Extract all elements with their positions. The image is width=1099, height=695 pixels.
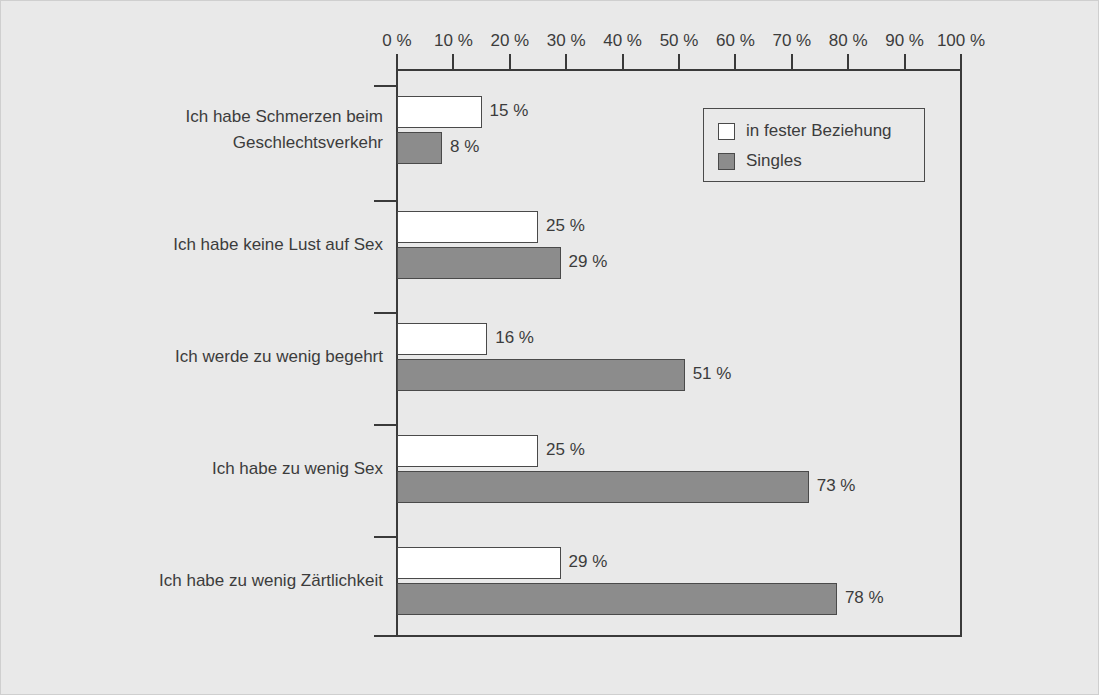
category-separator-4	[374, 536, 397, 538]
legend-label-in-fester-beziehung: in fester Beziehung	[746, 121, 892, 141]
bar-value-label-in-fester-beziehung-4: 29 %	[569, 552, 608, 572]
x-tick-label-80: 80 %	[829, 31, 868, 51]
category-label-3: Ich habe zu wenig Sex	[61, 456, 383, 482]
bar-value-label-in-fester-beziehung-2: 16 %	[495, 328, 534, 348]
x-tick-label-70: 70 %	[772, 31, 811, 51]
bar-value-label-in-fester-beziehung-3: 25 %	[546, 440, 585, 460]
bar-in-fester-beziehung-0	[397, 96, 482, 128]
category-label-line: Ich habe Schmerzen beim	[61, 104, 383, 130]
category-label-1: Ich habe keine Lust auf Sex	[61, 232, 383, 258]
bar-value-label-singles-2: 51 %	[693, 364, 732, 384]
bar-value-label-in-fester-beziehung-1: 25 %	[546, 216, 585, 236]
x-tick-label-40: 40 %	[603, 31, 642, 51]
legend-swatch-white	[718, 123, 735, 140]
category-label-line: Geschlechtsverkehr	[61, 130, 383, 156]
chart-legend: in fester Beziehung Singles	[703, 108, 925, 182]
x-tick-100	[960, 54, 962, 70]
bar-in-fester-beziehung-4	[397, 547, 561, 579]
x-tick-label-10: 10 %	[434, 31, 473, 51]
category-label-4: Ich habe zu wenig Zärtlichkeit	[61, 568, 383, 594]
bar-value-label-singles-1: 29 %	[569, 252, 608, 272]
x-tick-60	[734, 54, 736, 70]
bar-in-fester-beziehung-3	[397, 435, 538, 467]
x-tick-label-0: 0 %	[382, 31, 411, 51]
x-tick-30	[565, 54, 567, 70]
category-label-line: Ich werde zu wenig begehrt	[61, 344, 383, 370]
category-separator-0	[374, 85, 397, 87]
x-tick-label-50: 50 %	[660, 31, 699, 51]
bar-value-label-singles-0: 8 %	[450, 137, 479, 157]
x-tick-0	[396, 54, 398, 70]
legend-label-singles: Singles	[746, 151, 802, 171]
x-tick-40	[622, 54, 624, 70]
x-tick-10	[452, 54, 454, 70]
x-tick-90	[904, 54, 906, 70]
bar-singles-1	[397, 247, 561, 279]
x-tick-label-20: 20 %	[490, 31, 529, 51]
bar-value-label-singles-3: 73 %	[817, 476, 856, 496]
x-tick-label-30: 30 %	[547, 31, 586, 51]
x-tick-label-90: 90 %	[885, 31, 924, 51]
bar-singles-3	[397, 471, 809, 503]
x-tick-20	[509, 54, 511, 70]
x-tick-label-60: 60 %	[716, 31, 755, 51]
x-tick-label-100: 100 %	[937, 31, 985, 51]
category-label-line: Ich habe keine Lust auf Sex	[61, 232, 383, 258]
category-label-line: Ich habe zu wenig Zärtlichkeit	[61, 568, 383, 594]
category-label-2: Ich werde zu wenig begehrt	[61, 344, 383, 370]
bar-in-fester-beziehung-1	[397, 211, 538, 243]
bar-value-label-in-fester-beziehung-0: 15 %	[490, 101, 529, 121]
legend-item-singles: Singles	[718, 150, 802, 172]
category-separator-3	[374, 424, 397, 426]
bar-singles-0	[397, 132, 442, 164]
bar-in-fester-beziehung-2	[397, 323, 487, 355]
bar-value-label-singles-4: 78 %	[845, 588, 884, 608]
bar-singles-4	[397, 583, 837, 615]
category-separator-2	[374, 312, 397, 314]
x-tick-50	[678, 54, 680, 70]
x-tick-70	[791, 54, 793, 70]
plot-right-border	[960, 69, 962, 637]
category-label-0: Ich habe Schmerzen beimGeschlechtsverkeh…	[61, 104, 383, 156]
bar-singles-2	[397, 359, 685, 391]
plot-bottom-border	[374, 635, 962, 637]
category-label-line: Ich habe zu wenig Sex	[61, 456, 383, 482]
chart-figure: 0 %10 %20 %30 %40 %50 %60 %70 %80 %90 %1…	[0, 0, 1099, 695]
legend-swatch-gray	[718, 153, 735, 170]
x-tick-80	[847, 54, 849, 70]
category-separator-1	[374, 200, 397, 202]
legend-item-in-fester-beziehung: in fester Beziehung	[718, 120, 892, 142]
